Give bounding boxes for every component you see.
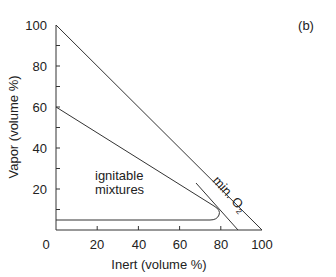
x-tick-20: 20 xyxy=(90,237,104,252)
x-tick-100: 100 xyxy=(251,237,273,252)
x-ticks xyxy=(97,226,221,230)
region-label-line2: mixtures xyxy=(95,182,145,197)
min-o2-text: min. O xyxy=(210,173,247,211)
y-axis-title: Vapor (volume %) xyxy=(6,75,21,178)
y-tick-20: 20 xyxy=(33,182,47,197)
x-tick-80: 80 xyxy=(214,237,228,252)
y-tick-80: 80 xyxy=(33,59,47,74)
x-tick-labels: 0 20 40 60 80 100 xyxy=(42,237,272,252)
min-o2-label: min. O2 xyxy=(208,173,250,217)
y-tick-labels: 100 80 60 40 20 xyxy=(25,18,47,197)
y-tick-60: 60 xyxy=(33,100,47,115)
x-axis-title: Inert (volume %) xyxy=(111,257,206,272)
x-tick-0: 0 xyxy=(42,237,49,252)
region-label-line1: ignitable xyxy=(95,168,143,183)
panel-label: (b) xyxy=(298,18,314,33)
y-tick-40: 40 xyxy=(33,141,47,156)
y-ticks xyxy=(56,46,60,210)
svg-text:min. O2: min. O2 xyxy=(208,173,250,217)
flammability-diagram: (b) 100 80 60 40 20 xyxy=(0,0,336,277)
y-tick-100: 100 xyxy=(25,18,47,33)
x-tick-60: 60 xyxy=(173,237,187,252)
x-tick-40: 40 xyxy=(132,237,146,252)
